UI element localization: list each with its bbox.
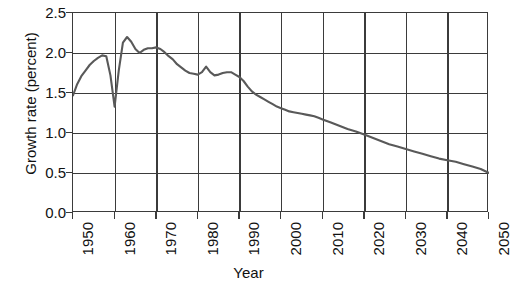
x-tick-mark	[363, 212, 364, 219]
x-tick-mark	[72, 212, 73, 219]
x-tick-label: 2040	[454, 222, 469, 268]
x-tick-label: 2050	[496, 222, 511, 268]
x-tick-mark	[114, 212, 115, 219]
x-tick-mark	[155, 212, 156, 219]
x-tick-mark	[238, 212, 239, 219]
y-tick-label: 1.5	[28, 85, 66, 100]
x-tick-label: 2010	[330, 222, 345, 268]
y-tick-label: 0.0	[28, 205, 66, 220]
x-tick-mark	[280, 212, 281, 219]
x-tick-label: 1980	[205, 222, 220, 268]
x-tick-label: 1950	[80, 222, 95, 268]
data-series-line	[73, 13, 489, 213]
x-tick-mark	[446, 212, 447, 219]
y-tick-label: 0.5	[28, 165, 66, 180]
x-axis-title: Year	[0, 264, 497, 281]
x-tick-label: 2000	[288, 222, 303, 268]
plot-area	[72, 12, 488, 212]
y-axis-tick-labels: 2.5 2.0 1.5 1.0 0.5 0.0	[22, 0, 66, 290]
x-tick-mark	[322, 212, 323, 219]
x-tick-mark	[405, 212, 406, 219]
x-tick-label: 1970	[163, 222, 178, 268]
x-tick-mark	[197, 212, 198, 219]
x-tick-label: 1990	[246, 222, 261, 268]
x-tick-label: 1960	[122, 222, 137, 268]
growth-rate-polyline	[73, 37, 489, 173]
y-tick-label: 2.0	[28, 45, 66, 60]
y-tick-label: 2.5	[28, 5, 66, 20]
y-tick-label: 1.0	[28, 125, 66, 140]
x-tick-label: 2030	[413, 222, 428, 268]
x-tick-mark	[488, 212, 489, 219]
x-tick-label: 2020	[371, 222, 386, 268]
